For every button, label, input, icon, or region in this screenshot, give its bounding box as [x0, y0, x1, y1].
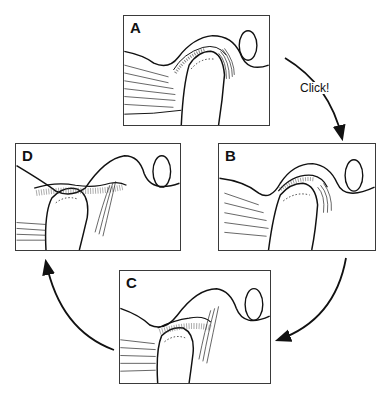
joint-illustration-d: [16, 144, 180, 250]
joint-illustration-c: [120, 271, 270, 383]
panel-label-b: B: [225, 148, 236, 163]
panel-b: B: [218, 143, 376, 251]
diagram-stage: Click! A: [0, 0, 389, 398]
panel-label-c: C: [126, 275, 137, 290]
arrow-b-to-c: [278, 258, 346, 340]
arrow-c-to-d: [46, 262, 114, 350]
panel-label-d: D: [22, 148, 33, 163]
panel-label-a: A: [130, 20, 141, 35]
panel-c: C: [119, 270, 271, 384]
click-label: Click!: [299, 82, 330, 94]
panel-d: D: [15, 143, 181, 251]
joint-illustration-b: [219, 144, 375, 250]
joint-illustration-a: [124, 16, 269, 125]
arrow-a-to-b: [285, 58, 342, 138]
panel-a: A: [123, 15, 270, 126]
